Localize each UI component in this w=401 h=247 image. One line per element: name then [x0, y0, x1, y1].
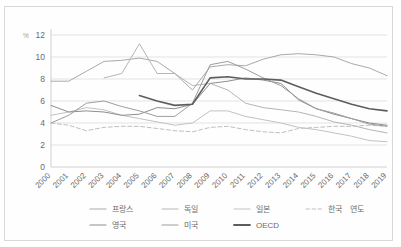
series-line-일본[interactable]: [51, 108, 387, 142]
x-tick-label-2002: 2002: [69, 171, 88, 190]
legend-label-미국[interactable]: 미국: [184, 221, 198, 230]
x-tick-label-2001: 2001: [51, 171, 70, 190]
y-gridlines: 024681012: [36, 30, 387, 172]
x-tick-label-2000: 2000: [33, 171, 52, 190]
chart-canvas: 024681012%200020012002200320042005200620…: [5, 7, 394, 242]
y-tick-label-6: 6: [40, 96, 45, 106]
y-tick-label-12: 12: [36, 30, 46, 40]
x-tick-label-2016: 2016: [316, 171, 335, 190]
x-tick-label-2007: 2007: [157, 171, 176, 190]
x-tick-label-2015: 2015: [299, 171, 318, 190]
y-axis-unit-label: %: [23, 32, 29, 39]
y-tick-label-4: 4: [40, 118, 45, 128]
x-tick-label-2010: 2010: [210, 171, 229, 190]
legend-label-독일[interactable]: 독일: [184, 205, 198, 214]
series-line-OECD[interactable]: [139, 77, 387, 111]
x-tick-label-2011: 2011: [228, 171, 247, 190]
x-tick-label-2003: 2003: [87, 171, 106, 190]
x-tick-label-2017: 2017: [334, 171, 353, 190]
series-group: [51, 44, 387, 142]
x-axis-unit-label: 연도: [350, 205, 364, 214]
legend-label-프랑스[interactable]: 프랑스: [112, 204, 133, 214]
x-tick-label-2019: 2019: [369, 171, 388, 190]
x-tick-label-2009: 2009: [193, 171, 212, 190]
x-tick-label-2008: 2008: [175, 171, 194, 190]
x-tick-label-2005: 2005: [122, 171, 141, 190]
series-line-한국[interactable]: [51, 123, 387, 133]
series-line-프랑스[interactable]: [51, 54, 387, 90]
y-tick-label-8: 8: [40, 74, 45, 84]
legend-label-OECD[interactable]: OECD: [256, 221, 279, 230]
y-tick-label-2: 2: [40, 140, 45, 150]
x-tick-label-2004: 2004: [104, 171, 123, 190]
x-tick-label-2014: 2014: [281, 171, 300, 190]
x-axis-labels: 2000200120022003200420052006200720082009…: [33, 171, 388, 190]
line-chart: 024681012%200020012002200320042005200620…: [5, 7, 394, 242]
series-line-미국[interactable]: [51, 61, 387, 126]
chart-frame: 024681012%200020012002200320042005200620…: [4, 6, 393, 241]
legend-label-영국[interactable]: 영국: [112, 220, 126, 230]
x-tick-label-2018: 2018: [352, 171, 371, 190]
x-tick-label-2012: 2012: [246, 171, 265, 190]
legend-label-일본[interactable]: 일본: [256, 205, 270, 214]
x-tick-label-2013: 2013: [263, 171, 282, 190]
y-tick-label-0: 0: [40, 162, 45, 172]
chart-legend: 프랑스독일일본한국영국미국OECD: [90, 204, 342, 230]
legend-label-한국[interactable]: 한국: [328, 205, 342, 214]
x-tick-label-2006: 2006: [140, 171, 159, 190]
y-tick-label-10: 10: [36, 52, 46, 62]
